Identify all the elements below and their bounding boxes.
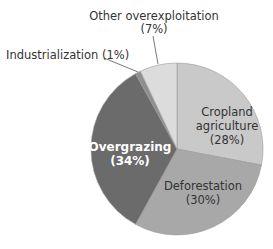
label-overgrazing-percent: (34%) (110, 154, 150, 168)
label-other-name: Other overexploitation (89, 9, 219, 23)
label-other-overexploitation: Other overexploitation (7%) (89, 9, 219, 36)
label-cropland-line1: Cropland (201, 105, 253, 119)
pie-chart: Other overexploitation (7%) Industrializ… (0, 0, 273, 249)
label-deforestation-name: Deforestation (164, 179, 242, 193)
label-deforestation-percent: (30%) (186, 193, 221, 207)
label-other-percent: (7%) (140, 22, 167, 36)
label-cropland-percent: (28%) (210, 133, 245, 147)
label-overgrazing-name: Overgrazing (89, 140, 172, 154)
label-industrialization: Industrialization (1%) (6, 48, 129, 62)
label-cropland-line2: agriculture (196, 119, 258, 133)
other-leader-line (153, 36, 158, 64)
